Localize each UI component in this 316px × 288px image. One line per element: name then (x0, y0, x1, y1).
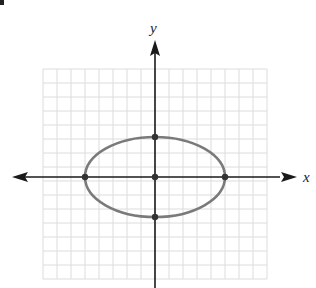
ellipse-diagram: x y (0, 0, 316, 288)
point-center (152, 174, 158, 180)
x-axis-right-arrow-icon (281, 172, 297, 182)
point-bottom-co-vertex (152, 214, 158, 220)
y-axis-label: y (148, 20, 157, 36)
x-axis-label: x (302, 169, 310, 185)
point-top-co-vertex (152, 134, 158, 140)
point-left-vertex (82, 174, 88, 180)
point-right-vertex (222, 174, 228, 180)
